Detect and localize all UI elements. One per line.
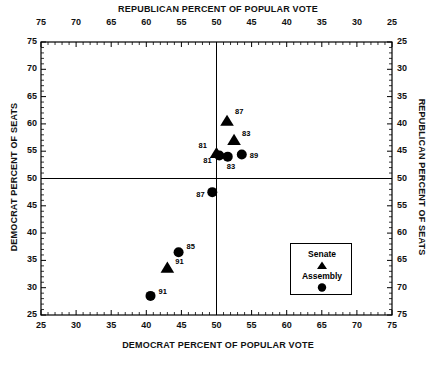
y2-tick-label-70: 70	[397, 282, 421, 292]
legend-marker-circle	[315, 282, 329, 293]
data-point-assembly-81	[214, 151, 224, 161]
data-point-label-assembly-87: 87	[196, 190, 204, 199]
x-tick-label-70: 70	[342, 320, 372, 330]
data-point-senate-87	[220, 115, 234, 126]
legend-label-senate: Senate	[291, 249, 353, 259]
data-point-label-assembly-91: 91	[159, 287, 167, 296]
x-tick-label-55: 55	[237, 320, 267, 330]
data-point-assembly-83	[223, 152, 233, 162]
legend-item-assembly: Assembly	[291, 271, 353, 293]
y2-tick-label-60: 60	[397, 227, 421, 237]
y2-tick-label-35: 35	[397, 91, 421, 101]
x2-tick-label-30: 30	[342, 17, 372, 27]
x2-tick-label-45: 45	[237, 17, 267, 27]
x2-tick-label-70: 70	[61, 17, 91, 27]
data-point-assembly-85	[174, 247, 184, 257]
x-tick-label-25: 25	[26, 320, 56, 330]
scatter-plot-figure: REPUBLICAN PERCENT OF POPULAR VOTE DEMOC…	[0, 0, 436, 366]
legend: SenateAssembly	[290, 243, 352, 295]
plot-canvas	[0, 0, 436, 366]
y-tick-label-60: 60	[13, 118, 37, 128]
x-tick-label-60: 60	[272, 320, 302, 330]
y-tick-label-25: 25	[13, 309, 37, 319]
y2-tick-label-50: 50	[397, 173, 421, 183]
x-tick-label-40: 40	[131, 320, 161, 330]
x-tick-label-50: 50	[202, 320, 232, 330]
x-tick-label-65: 65	[307, 320, 337, 330]
y2-tick-label-25: 25	[397, 36, 421, 46]
x2-tick-label-75: 75	[26, 17, 56, 27]
y2-tick-label-45: 45	[397, 145, 421, 155]
y2-tick-label-65: 65	[397, 254, 421, 264]
x2-tick-label-35: 35	[307, 17, 337, 27]
y2-tick-label-55: 55	[397, 200, 421, 210]
data-point-label-assembly-85: 85	[187, 242, 195, 251]
data-point-label-assembly-89: 89	[250, 151, 258, 160]
x-tick-label-30: 30	[61, 320, 91, 330]
data-point-label-senate-87: 87	[235, 107, 243, 116]
data-point-label-senate-83: 83	[242, 129, 250, 138]
legend-marker-triangle	[315, 260, 329, 271]
y-tick-label-75: 75	[13, 36, 37, 46]
data-point-label-senate-91: 91	[175, 257, 183, 266]
y-tick-label-35: 35	[13, 254, 37, 264]
x2-tick-label-25: 25	[377, 17, 407, 27]
y2-tick-label-40: 40	[397, 118, 421, 128]
x2-tick-label-40: 40	[272, 17, 302, 27]
x2-tick-label-60: 60	[131, 17, 161, 27]
data-point-assembly-89	[237, 149, 247, 159]
y2-tick-label-30: 30	[397, 63, 421, 73]
legend-label-assembly: Assembly	[291, 271, 353, 281]
y2-tick-label-75: 75	[397, 309, 421, 319]
x-tick-label-45: 45	[166, 320, 196, 330]
x2-tick-label-65: 65	[96, 17, 126, 27]
data-point-senate-83	[227, 134, 241, 145]
x-tick-label-35: 35	[96, 320, 126, 330]
legend-item-senate: Senate	[291, 249, 353, 271]
y-tick-label-40: 40	[13, 227, 37, 237]
y-tick-label-70: 70	[13, 63, 37, 73]
data-point-assembly-91	[146, 291, 156, 301]
y-tick-label-45: 45	[13, 200, 37, 210]
x2-tick-label-55: 55	[166, 17, 196, 27]
y-tick-label-50: 50	[13, 173, 37, 183]
data-point-senate-91	[161, 262, 175, 273]
x2-tick-label-50: 50	[202, 17, 232, 27]
data-point-assembly-87	[207, 187, 217, 197]
data-point-label-assembly-81: 81	[203, 156, 211, 165]
y-tick-label-30: 30	[13, 282, 37, 292]
data-point-label-senate-81: 81	[199, 141, 207, 150]
x-tick-label-75: 75	[377, 320, 407, 330]
y-tick-label-65: 65	[13, 91, 37, 101]
data-point-label-assembly-83: 83	[227, 162, 235, 171]
y-tick-label-55: 55	[13, 145, 37, 155]
